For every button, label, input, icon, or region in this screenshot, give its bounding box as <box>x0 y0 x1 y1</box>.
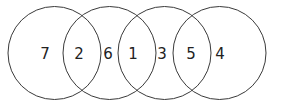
venn-diagram-canvas: 7 2 6 1 3 5 4 <box>0 0 281 108</box>
circle-1 <box>8 7 101 100</box>
venn-diagram: 7 2 6 1 3 5 4 <box>0 0 281 108</box>
region-label-circle-4-only: 4 <box>215 45 225 63</box>
region-label-circle-1-and-2: 2 <box>74 45 84 63</box>
region-label-circle-3-only: 3 <box>157 45 167 63</box>
region-label-circle-2-and-3: 1 <box>128 45 138 63</box>
region-label-circle-3-and-4: 5 <box>186 45 196 63</box>
region-label-circle-2-only: 6 <box>103 45 113 63</box>
region-label-circle-1-only: 7 <box>40 45 50 63</box>
